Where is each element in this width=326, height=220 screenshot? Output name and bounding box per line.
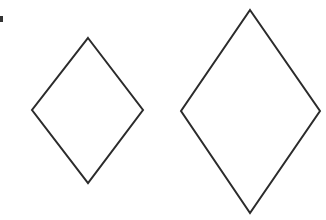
diagram-canvas xyxy=(0,0,326,220)
large-diamond xyxy=(181,10,320,213)
small-diamond xyxy=(32,38,143,183)
